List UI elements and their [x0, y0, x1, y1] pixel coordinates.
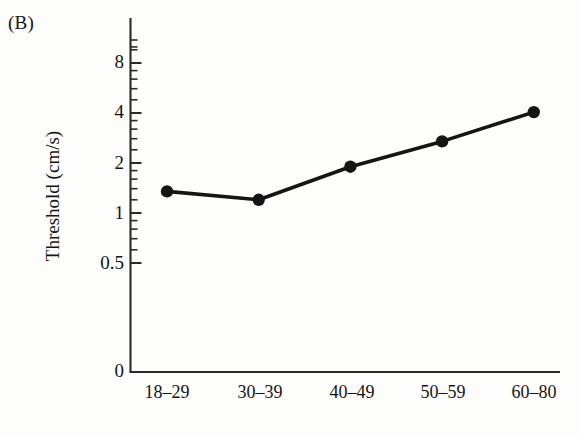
figure-panel-b: (B) Threshold (cm/s) 8 4 2 1 0.5 0 18–29…	[0, 0, 579, 437]
data-point-marker: 60–80: 4.05	[528, 106, 540, 118]
data-point-marker: 50–59: 2.7	[436, 135, 448, 147]
data-point-marker: 40–49: 1.9	[344, 161, 356, 173]
plot-area: 18–29: 1.3530–39: 1.240–49: 1.950–59: 2.…	[0, 0, 579, 437]
data-point-marker: 18–29: 1.35	[161, 185, 173, 197]
y-axis-tick-marks	[131, 40, 142, 263]
series-line	[167, 112, 534, 200]
data-point-marker: 30–39: 1.2	[253, 194, 265, 206]
data-series-threshold: 18–29: 1.3530–39: 1.240–49: 1.950–59: 2.…	[161, 106, 540, 206]
